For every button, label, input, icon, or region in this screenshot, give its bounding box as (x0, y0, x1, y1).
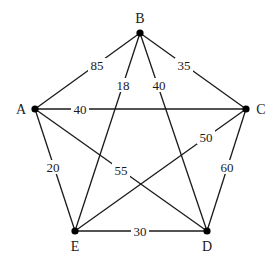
edge-labels-group: 85183540405060205530 (44, 58, 236, 239)
edge-a-b (35, 33, 140, 109)
edge-weight-b-e: 18 (117, 78, 130, 93)
edge-weight-b-d: 40 (153, 78, 166, 93)
edge-weight-b-c: 35 (178, 58, 191, 73)
node-label-a: A (16, 102, 27, 117)
node-label-b: B (135, 11, 144, 26)
node-label-e: E (71, 239, 80, 254)
edge-weight-a-e: 20 (47, 160, 60, 175)
nodes-group: ABCDE (16, 11, 266, 254)
edge-weight-a-c: 40 (74, 102, 87, 117)
edge-b-e (75, 33, 140, 231)
edge-weight-a-b: 85 (91, 58, 104, 73)
edge-weight-c-e: 50 (200, 130, 213, 145)
node-e (71, 227, 78, 234)
node-a (31, 105, 38, 112)
node-label-c: C (256, 102, 265, 117)
edge-b-d (140, 33, 207, 231)
node-b (136, 29, 143, 36)
node-c (242, 105, 249, 112)
node-label-d: D (202, 239, 212, 254)
weighted-graph-diagram: 85183540405060205530 ABCDE (0, 0, 274, 263)
edge-weight-c-d: 60 (221, 160, 234, 175)
node-d (203, 227, 210, 234)
edge-weight-e-d: 30 (134, 224, 147, 239)
edge-weight-a-d: 55 (115, 163, 128, 178)
